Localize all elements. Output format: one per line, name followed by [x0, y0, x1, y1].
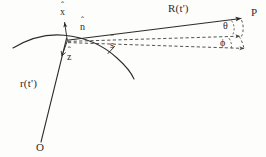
- theta-angle-label: θ: [223, 21, 228, 31]
- source-vector-label: r(t'): [20, 78, 37, 89]
- x-hat-label: ˆ x: [60, 7, 65, 17]
- x-hat-caret: ˆ: [61, 1, 64, 10]
- phi-angle-arc: [229, 38, 231, 48]
- observation-point-label: P: [251, 7, 257, 18]
- x-hat-vector-arrow: [65, 23, 68, 40]
- s-hat-label: ˆ s: [110, 40, 114, 50]
- origin-label: O: [36, 142, 44, 153]
- s-hat-caret: ˆ: [110, 34, 113, 43]
- vertical-closure-dashed-line: [242, 20, 244, 37]
- phi-closure-dashed-line: [240, 37, 244, 47]
- trajectory-curve: [13, 35, 134, 79]
- radiation-geometry-figure: R(t') P r(t') O θ ϕ ˆ x ˆ n ˆ z ˆ s: [0, 0, 266, 157]
- z-hat-caret: ˆ: [68, 46, 71, 55]
- phi-angle-label: ϕ: [220, 38, 225, 48]
- n-hat-caret: ˆ: [81, 16, 84, 25]
- theta-angle-arc: [232, 21, 235, 35]
- z-hat-label: ˆ z: [67, 52, 71, 62]
- n-hat-label: ˆ n: [80, 22, 85, 32]
- field-vector-label: R(t'): [168, 3, 189, 14]
